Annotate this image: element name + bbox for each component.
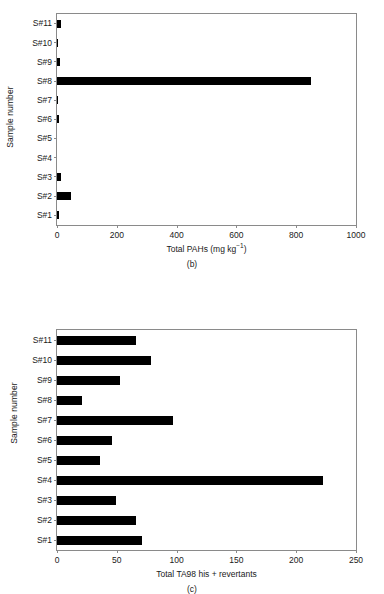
y-tick-label-S7: S#7: [37, 96, 52, 105]
x-tick-mark: [296, 225, 297, 228]
bar-S7: [57, 416, 173, 425]
y-tick-mark: [54, 119, 57, 120]
bar-S1: [57, 536, 142, 545]
y-tick-mark: [54, 380, 57, 381]
bar-row: S#11: [57, 330, 356, 350]
y-tick-label-S10: S#10: [32, 356, 52, 365]
y-tick-mark: [54, 100, 57, 101]
y-tick-label-S6: S#6: [37, 436, 52, 445]
x-axis-title-tail: ): [244, 244, 247, 254]
x-tick-label: 1000: [347, 230, 366, 240]
y-tick-label-S6: S#6: [37, 115, 52, 124]
bars-group-c: S#11S#10S#9S#8S#7S#6S#5S#4S#3S#2S#1: [57, 330, 356, 550]
bar-row: S#9: [57, 370, 356, 390]
y-tick-label-S7: S#7: [37, 416, 52, 425]
bar-S4: [57, 476, 323, 485]
y-tick-mark: [54, 440, 57, 441]
bar-row: S#3: [57, 167, 356, 186]
bar-row: S#4: [57, 470, 356, 490]
x-tick-mark: [296, 550, 297, 553]
x-tick-mark: [117, 550, 118, 553]
bar-S10: [57, 356, 151, 365]
bar-row: S#11: [57, 14, 356, 33]
x-tick-label: 0: [55, 230, 60, 240]
y-tick-label-S1: S#1: [37, 211, 52, 220]
y-tick-mark: [54, 61, 57, 62]
x-axis-title-b: Total PAHs (mg kg−1): [56, 244, 357, 254]
bar-row: S#9: [57, 52, 356, 71]
panel-tag-c: (c): [0, 584, 384, 594]
y-tick-label-S11: S#11: [33, 336, 52, 345]
y-axis-title: Sample number: [9, 382, 19, 444]
bar-row: S#4: [57, 148, 356, 167]
y-tick-label-S4: S#4: [37, 476, 52, 485]
bar-row: S#10: [57, 33, 356, 52]
bar-row: S#8: [57, 72, 356, 91]
bar-S10: [57, 39, 58, 47]
x-tick-label: 600: [229, 230, 243, 240]
plot-area-c: S#11S#10S#9S#8S#7S#6S#5S#4S#3S#2S#1 0501…: [56, 329, 357, 551]
x-axis-title-text: Total PAHs (mg kg: [166, 244, 236, 254]
chart-panel-c: Sample number S#11S#10S#9S#8S#7S#6S#5S#4…: [0, 296, 384, 587]
x-axis-title-exponent: −1: [236, 242, 243, 249]
x-tick-label: 200: [289, 555, 303, 565]
bar-S6: [57, 436, 112, 445]
y-tick-mark: [54, 138, 57, 139]
y-tick-label-S8: S#8: [37, 77, 52, 86]
bar-row: S#8: [57, 390, 356, 410]
y-tick-label-S3: S#3: [37, 496, 52, 505]
y-tick-mark: [54, 215, 57, 216]
chart-panel-b: Sample number S#11S#10S#9S#8S#7S#6S#5S#4…: [0, 0, 384, 272]
panel-tag-b: (b): [0, 259, 384, 269]
bar-S8: [57, 77, 311, 85]
y-tick-label-S5: S#5: [37, 456, 52, 465]
x-tick-mark: [236, 550, 237, 553]
y-tick-label-S3: S#3: [37, 173, 52, 182]
y-tick-mark: [54, 540, 57, 541]
y-tick-mark: [54, 196, 57, 197]
bar-row: S#7: [57, 91, 356, 110]
x-tick-mark: [177, 550, 178, 553]
y-tick-label-S9: S#9: [37, 376, 52, 385]
x-tick-label: 250: [349, 555, 363, 565]
x-tick-mark: [57, 550, 58, 553]
x-tick-label: 0: [55, 555, 60, 565]
y-tick-label-S9: S#9: [37, 58, 52, 67]
bar-S2: [57, 192, 71, 200]
bar-row: S#2: [57, 510, 356, 530]
y-tick-mark: [54, 520, 57, 521]
y-tick-label-S11: S#11: [33, 19, 52, 28]
bar-S9: [57, 376, 120, 385]
y-tick-mark: [54, 460, 57, 461]
x-tick-mark: [356, 225, 357, 228]
x-tick-label: 150: [229, 555, 243, 565]
y-tick-label-S1: S#1: [37, 536, 52, 545]
bar-S6: [57, 115, 59, 123]
bar-S7: [57, 96, 58, 104]
bar-S1: [57, 211, 59, 219]
y-tick-mark: [54, 340, 57, 341]
y-tick-label-S2: S#2: [37, 192, 52, 201]
y-tick-mark: [54, 81, 57, 82]
x-tick-label: 200: [110, 230, 124, 240]
bar-row: S#6: [57, 110, 356, 129]
bar-S5: [57, 456, 100, 465]
bar-row: S#3: [57, 490, 356, 510]
bar-S3: [57, 173, 61, 181]
bar-S9: [57, 58, 60, 66]
y-tick-label-S10: S#10: [32, 39, 52, 48]
bar-row: S#5: [57, 450, 356, 470]
x-tick-mark: [177, 225, 178, 228]
bar-S11: [57, 336, 136, 345]
bar-row: S#7: [57, 410, 356, 430]
x-axis-title-c: Total TA98 his + revertants: [56, 569, 357, 579]
y-axis-title: Sample number: [5, 86, 15, 148]
bar-row: S#2: [57, 187, 356, 206]
x-tick-mark: [236, 225, 237, 228]
bar-row: S#10: [57, 350, 356, 370]
y-tick-mark: [54, 360, 57, 361]
y-tick-label-S2: S#2: [37, 516, 52, 525]
y-tick-label-S4: S#4: [37, 154, 52, 163]
bar-row: S#5: [57, 129, 356, 148]
